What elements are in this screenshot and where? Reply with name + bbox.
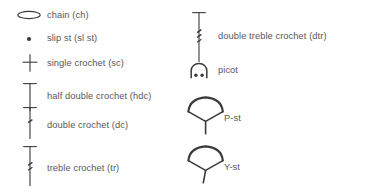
puff-p-stitch-symbol xyxy=(185,94,227,136)
legend-label-double-treble-crochet: double treble crochet (dtr) xyxy=(218,31,327,42)
legend-label-y-stitch: Y-st xyxy=(224,162,240,173)
legend-label-half-double-crochet: half double crochet (hdc) xyxy=(47,91,151,102)
legend-label-p-stitch: P-st xyxy=(224,113,241,124)
legend-label-single-crochet: single crochet (sc) xyxy=(47,58,124,69)
legend-label-treble-crochet: treble crochet (tr) xyxy=(47,163,119,174)
dot-slip-stitch-symbol xyxy=(23,33,35,45)
tee-one-slash-double-crochet-symbol xyxy=(21,106,39,140)
crochet-symbol-legend: chain (ch) slip st (sl st) single croche… xyxy=(0,0,366,194)
legend-label-picot: picot xyxy=(218,65,238,76)
cross-single-crochet-symbol xyxy=(21,53,39,73)
y-stitch-symbol xyxy=(185,143,227,185)
tee-three-slash-double-treble-symbol xyxy=(190,11,208,63)
tee-two-slash-treble-crochet-symbol xyxy=(21,145,39,187)
oval-chain-symbol xyxy=(16,9,42,21)
legend-label-slip-stitch: slip st (sl st) xyxy=(47,33,97,44)
legend-label-chain: chain (ch) xyxy=(47,10,89,21)
arch-picot-symbol xyxy=(188,62,210,80)
legend-label-double-crochet: double crochet (dc) xyxy=(47,120,128,131)
